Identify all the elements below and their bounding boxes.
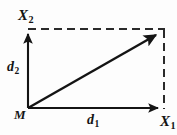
origin-label-m: M bbox=[14, 108, 26, 121]
resultant-vector-arrow bbox=[28, 35, 156, 108]
component-label-d2: d2 bbox=[7, 60, 19, 74]
vector-diagram: X2 X1 M d2 d1 bbox=[0, 0, 177, 135]
axis-label-x2: X2 bbox=[18, 8, 33, 23]
axis-label-x1: X1 bbox=[160, 114, 175, 129]
component-label-d1: d1 bbox=[87, 113, 99, 127]
